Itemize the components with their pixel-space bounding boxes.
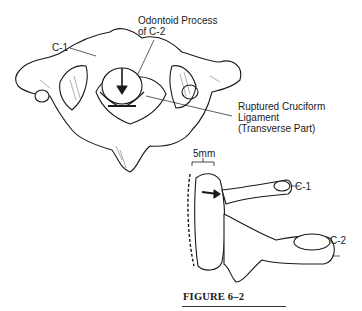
label-c2-side: C-2 <box>330 235 346 246</box>
label-5mm: 5mm <box>193 148 215 159</box>
figure-caption: FIGURE 6–2 <box>183 291 244 302</box>
label-odontoid-process-line2: of C-2 <box>138 26 165 37</box>
label-odontoid-process: Odontoid Process <box>138 15 218 26</box>
label-transverse-part: (Transverse Part) <box>238 123 315 134</box>
label-c1-top: C-1 <box>52 42 68 53</box>
label-ruptured-cruciform: Ruptured Cruciform <box>238 101 325 112</box>
caption-rule <box>182 306 286 307</box>
label-ligament: Ligament <box>238 112 279 123</box>
lateral-view-c1-c2 <box>188 158 334 282</box>
label-c1-side: C-1 <box>295 181 311 192</box>
